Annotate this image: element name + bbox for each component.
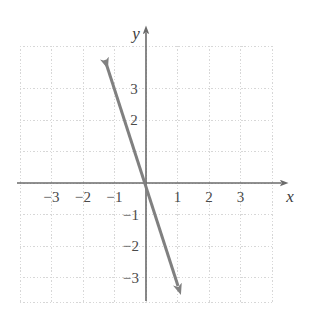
y-tick-label: 2: [130, 113, 138, 128]
graph-figure: y x −3 −2 −1 1 2 3 3 2 −1 −2 −3: [0, 0, 310, 309]
x-tick-label: −1: [106, 190, 122, 205]
y-tick-label: 3: [130, 81, 138, 96]
y-tick-label: −2: [123, 239, 139, 254]
coordinate-plane: [0, 0, 310, 309]
x-axis-label: x: [286, 188, 294, 205]
x-tick-label: 2: [205, 190, 213, 205]
x-tick-label: −2: [75, 190, 91, 205]
y-tick-label: −1: [123, 207, 139, 222]
x-tick-label: −3: [43, 190, 59, 205]
y-axis-label: y: [132, 25, 140, 42]
plotted-line: [105, 60, 178, 286]
y-tick-label: −3: [123, 270, 139, 285]
axes: [17, 33, 281, 301]
x-tick-label: 3: [237, 190, 245, 205]
x-tick-label: 1: [174, 190, 182, 205]
